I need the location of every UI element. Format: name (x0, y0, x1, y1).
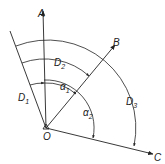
label-d1: D1 (18, 92, 29, 105)
label-alpha2: α2 (83, 107, 93, 120)
ray-a (43, 11, 46, 128)
label-a: A (37, 8, 45, 19)
label-b: B (113, 37, 120, 48)
ray-c (46, 128, 153, 154)
reference-line (10, 31, 46, 128)
label-o: O (43, 131, 51, 142)
label-d2: D2 (54, 57, 65, 70)
label-d3: D3 (126, 96, 137, 109)
arc-d3 (16, 40, 136, 146)
arc-d1 (30, 83, 44, 85)
label-c: C (154, 152, 162, 163)
direction-angle-diagram: A B C O D1 D2 D3 α1 α2 (0, 0, 165, 164)
label-alpha1: α1 (60, 81, 70, 94)
